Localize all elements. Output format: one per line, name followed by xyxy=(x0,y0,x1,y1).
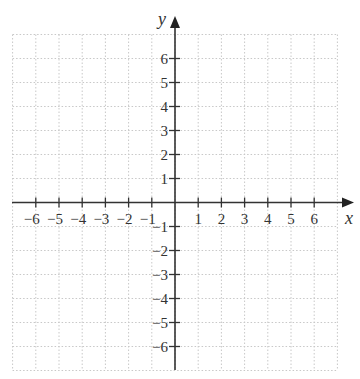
x-tick-label: −6 xyxy=(24,211,40,227)
x-axis-arrow-icon xyxy=(342,198,354,208)
x-tick-label: 1 xyxy=(194,211,202,227)
y-tick-label: 5 xyxy=(161,75,169,91)
x-tick-label: 3 xyxy=(241,211,249,227)
y-tick-label: 2 xyxy=(161,147,169,163)
x-tick-labels: −6−5−4−3−2−1123456 xyxy=(24,211,319,227)
y-tick-label: −2 xyxy=(152,243,168,259)
y-tick-label: 3 xyxy=(161,123,169,139)
x-tick-label: −4 xyxy=(70,211,86,227)
y-axis-arrow-icon xyxy=(170,16,180,28)
x-tick-label: −2 xyxy=(117,211,133,227)
x-tick-label: 5 xyxy=(287,211,295,227)
y-tick-label: 1 xyxy=(161,171,169,187)
y-tick-label: −3 xyxy=(152,267,168,283)
x-axis-label: x xyxy=(344,208,353,228)
coordinate-plane: −6−5−4−3−2−1123456 123456−1−2−3−4−5−6 x … xyxy=(0,0,360,379)
y-tick-label: −4 xyxy=(152,291,168,307)
x-tick-label: 4 xyxy=(264,211,272,227)
y-tick-label: −1 xyxy=(152,219,168,235)
x-tick-label: 2 xyxy=(218,211,226,227)
y-tick-label: −5 xyxy=(152,315,168,331)
x-tick-label: 6 xyxy=(310,211,318,227)
y-tick-label: 6 xyxy=(161,51,169,67)
y-tick-label: −6 xyxy=(152,339,168,355)
x-tick-label: −3 xyxy=(93,211,109,227)
y-axis-label: y xyxy=(156,9,166,29)
x-tick-label: −5 xyxy=(47,211,63,227)
y-tick-label: 4 xyxy=(161,99,169,115)
axes xyxy=(12,16,354,370)
